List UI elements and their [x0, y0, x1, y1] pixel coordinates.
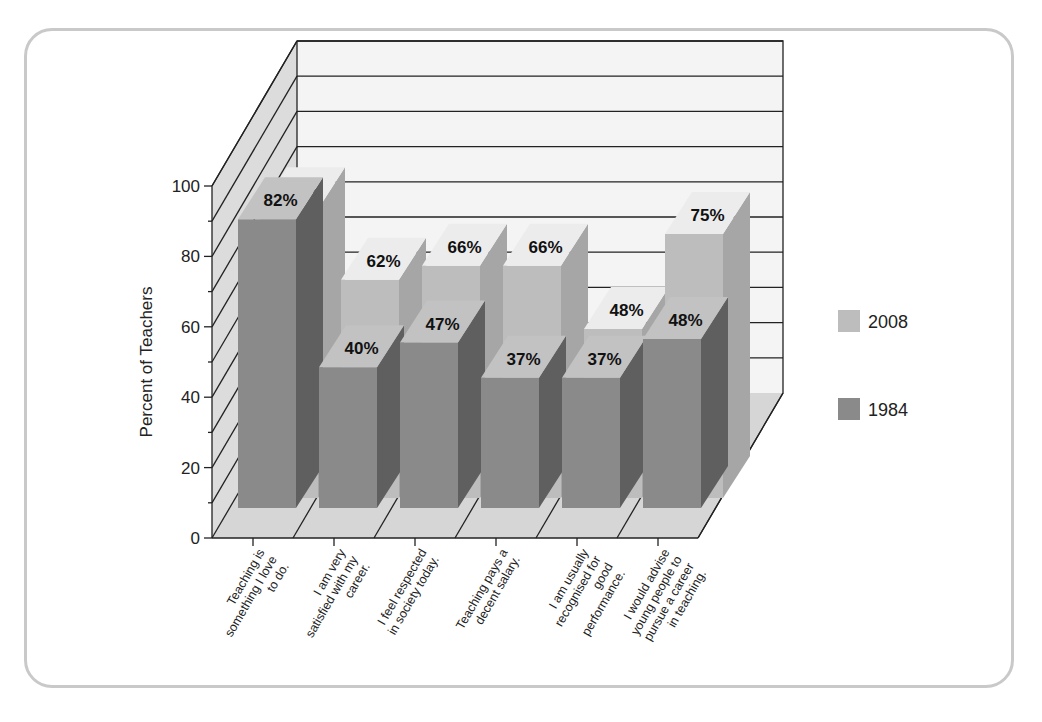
bar-front-face	[400, 343, 458, 508]
bar-side-face	[296, 177, 323, 508]
data-label: 37%	[506, 350, 540, 369]
bar-chart-3d: 82%62%66%66%48%75%82%40%47%37%37%48%0204…	[0, 0, 1042, 722]
data-label: 48%	[668, 311, 702, 330]
bar-1984-1: 40%	[319, 325, 404, 508]
legend-swatch-1984	[838, 398, 860, 420]
legend-swatch-2008	[838, 310, 860, 332]
data-label: 75%	[690, 206, 724, 225]
data-label: 66%	[528, 238, 562, 257]
y-axis-label: Percent of Teachers	[137, 287, 156, 438]
data-label: 82%	[263, 191, 297, 210]
y-tick-label: 40	[181, 388, 200, 407]
y-tick-label: 100	[172, 177, 200, 196]
bar-1984-0: 82%	[238, 177, 323, 508]
bar-front-face	[319, 367, 377, 508]
bar-front-face	[481, 378, 539, 508]
bar-1984-2: 47%	[400, 301, 485, 508]
y-tick-label: 60	[181, 318, 200, 337]
data-label: 62%	[366, 252, 400, 271]
legend-label-1984: 1984	[868, 400, 908, 420]
y-axis: 020406080100Percent of Teachers	[137, 177, 212, 548]
x-category-label: Teaching pays adecent salary.	[453, 546, 522, 638]
bar-1984-3: 37%	[481, 336, 566, 508]
x-category-label: Teaching issomething I loveto do.	[210, 546, 292, 646]
data-label: 37%	[587, 350, 621, 369]
bar-front-face	[238, 219, 296, 508]
legend-label-2008: 2008	[868, 312, 908, 332]
x-category-label: I am verysatisfied with mycareer.	[291, 546, 374, 647]
x-category-label: I am usuallyrecognised forgoodperformanc…	[540, 546, 628, 643]
bar-front-face	[643, 339, 701, 508]
y-tick-label: 0	[191, 529, 200, 548]
y-tick-label: 20	[181, 459, 200, 478]
x-axis-labels: Teaching issomething I loveto do.I am ve…	[210, 538, 709, 652]
data-label: 48%	[609, 301, 643, 320]
data-label: 47%	[425, 315, 459, 334]
x-category-label: I would adviseyoung people topursue a ca…	[616, 546, 709, 651]
data-label: 40%	[344, 339, 378, 358]
legend: 20081984	[838, 310, 908, 420]
bar-front-face	[562, 378, 620, 508]
y-tick-label: 80	[181, 247, 200, 266]
bar-1984-4: 37%	[562, 336, 647, 508]
data-label: 66%	[447, 238, 481, 257]
x-category-label: I feel respectedin society today.	[373, 546, 442, 637]
bar-1984-5: 48%	[643, 297, 728, 508]
